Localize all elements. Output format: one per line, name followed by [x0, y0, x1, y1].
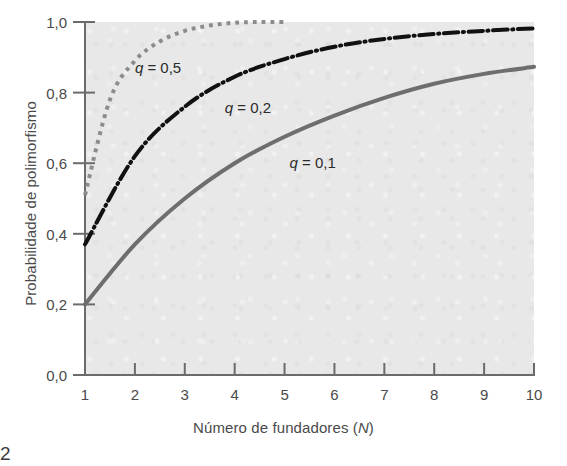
x-tick-label: 7	[380, 387, 388, 402]
y-tick-label: 0,8	[46, 85, 67, 100]
curve-label-1: q = 0,5	[135, 59, 181, 76]
y-tick-label: 0,0	[46, 368, 67, 383]
x-tick-label: 10	[526, 387, 543, 402]
series-curve-3	[85, 67, 534, 305]
curve-label-symbol: q	[225, 99, 233, 116]
x-tick-label: 1	[81, 387, 89, 402]
x-tick-label: 5	[280, 387, 288, 402]
y-tick-label: 1,0	[46, 15, 67, 30]
y-tick-label: 0,2	[46, 297, 67, 312]
x-tick-label: 6	[330, 387, 338, 402]
curve-label-3: q = 0,1	[290, 154, 336, 171]
x-tick-label: 8	[430, 387, 438, 402]
x-tick-label: 9	[480, 387, 488, 402]
x-tick-label: 3	[181, 387, 189, 402]
page-number: 2	[0, 444, 11, 463]
x-axis-title-symbol: N	[358, 419, 369, 436]
x-tick-label: 2	[131, 387, 139, 402]
curve-label-value: = 0,2	[233, 99, 271, 116]
curve-label-value: = 0,1	[298, 154, 336, 171]
figure-container: 0,00,20,40,60,81,0 12345678910 q = 0,5q …	[0, 0, 567, 466]
x-axis-title-suffix: )	[369, 419, 374, 436]
curve-label-symbol: q	[290, 154, 298, 171]
x-tick-label: 4	[230, 387, 238, 402]
curve-label-symbol: q	[135, 59, 143, 76]
y-tick-label: 0,6	[46, 156, 67, 171]
x-axis-title: Número de fundadores (N)	[0, 419, 567, 436]
curve-label-2: q = 0,2	[225, 99, 271, 116]
y-tick-label: 0,4	[46, 226, 67, 241]
x-axis-title-prefix: Número de fundadores (	[193, 419, 358, 436]
curve-label-value: = 0,5	[143, 59, 181, 76]
y-axis-title: Probabilidade de polimorfismo	[22, 39, 39, 369]
